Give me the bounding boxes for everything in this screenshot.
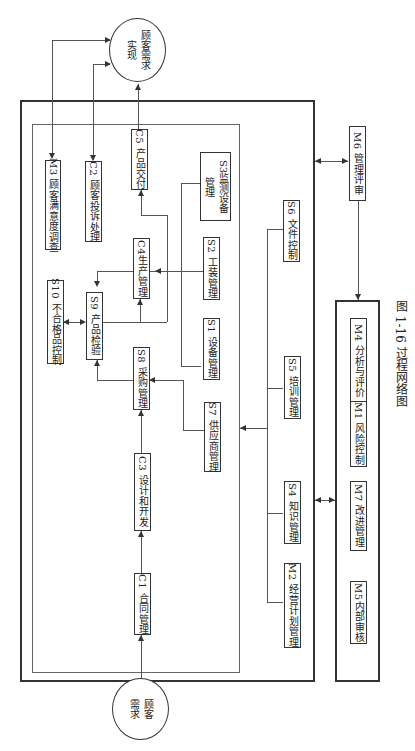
- node-c4-production-management: C4生产管理: [133, 238, 150, 299]
- node-c2-customer-complaint-handling: C2 顾客投诉处理: [85, 161, 102, 242]
- arrowhead: [315, 497, 321, 503]
- node-m5-internal-audit: M5内部审核: [350, 581, 367, 644]
- arrowhead: [240, 425, 246, 431]
- node-m4-analysis-evaluation: M4 分析与评价: [350, 318, 367, 403]
- edge-s1-c4: [181, 183, 182, 366]
- arrowhead: [342, 158, 348, 164]
- edge-m2-bus: [267, 602, 283, 603]
- figure-caption: 图 1-16 过程网络图: [392, 300, 409, 407]
- arrowhead: [137, 299, 143, 305]
- edge-s7-s8-tail: [183, 430, 204, 431]
- edge-c4-c5: [141, 215, 167, 216]
- node-s1-equipment-management: S1 设备管理: [203, 318, 220, 380]
- edge-start-c1: [141, 635, 142, 678]
- arrowhead: [105, 61, 111, 67]
- node-s7-supplier-management: S7 供应商管理: [204, 402, 221, 472]
- node-c3-design-development: C3 设计和开发: [134, 453, 151, 531]
- edge-s4-bus: [267, 513, 283, 514]
- node-s8-purchasing-management: S8 采购管理: [133, 347, 150, 410]
- edge-s1-c4-tail: [181, 366, 201, 367]
- edge-s6-bus: [267, 229, 283, 230]
- node-c5-product-delivery: C5 产品交付: [131, 129, 148, 190]
- node-s2-tooling-management: S2 工装管理: [203, 237, 220, 300]
- support-bus: [267, 229, 268, 602]
- node-s6-document-control: S6 文件控制: [283, 200, 300, 262]
- edge-m3-end: [52, 40, 110, 41]
- edge-c3-s8: [141, 410, 142, 453]
- node-s10-nonconforming-control: S10 不合格品控制: [47, 280, 64, 364]
- edge-c4-c5: [167, 215, 168, 322]
- node-m3-customer-satisfaction-survey: M3 顾客满意度调查: [45, 160, 61, 250]
- edge-c5-end: [138, 84, 139, 129]
- arrowhead: [135, 84, 141, 90]
- edge-c4-s9: [97, 271, 203, 272]
- edge-s7-s8: [183, 380, 184, 430]
- edge-m6-mgroup: [358, 201, 359, 300]
- node-c1-contract-management: C1 合同管理: [134, 573, 151, 635]
- arrowhead: [138, 531, 144, 537]
- start-node-customer-requirement: 顾客需求: [112, 678, 169, 740]
- arrowhead: [138, 635, 144, 641]
- arrowhead: [355, 294, 361, 300]
- node-s4-knowledge-management: S4 知识管理: [284, 481, 301, 544]
- arrowhead: [329, 497, 335, 503]
- arrowhead: [94, 360, 100, 366]
- edge-s9-right: [103, 322, 167, 323]
- arrowhead: [94, 281, 100, 287]
- node-s3-monitoring-equipment: S3监测设备管理: [200, 152, 231, 221]
- node-m6-management-review: M6 管理评审: [349, 126, 366, 201]
- node-s5-training-management: S5 培训管理: [284, 356, 301, 419]
- edge-s5-bus: [267, 388, 283, 389]
- arrowhead: [315, 158, 321, 164]
- edge-c1-c3: [141, 531, 142, 573]
- arrowhead: [155, 268, 161, 274]
- node-m1-risk-control: M1 风险控制: [350, 401, 367, 467]
- end-node-customer-requirement-realized: 顾客需求实现: [109, 18, 166, 82]
- arrowhead: [105, 37, 111, 43]
- edge-s1-c4: [181, 183, 201, 184]
- arrowhead: [138, 410, 144, 416]
- node-m7-improvement-management: M7 改进管理: [350, 481, 367, 551]
- node-m2-business-plan-management: M2 经营计划管理: [284, 563, 301, 648]
- node-s9-product-inspection: S9 产品检验: [86, 292, 103, 360]
- edge-s8-s9: [97, 380, 133, 381]
- edge-c4-s9-down: [97, 271, 98, 281]
- edge-m3-end: [52, 40, 53, 155]
- edge-c2-end: [93, 64, 94, 160]
- arrowhead: [138, 190, 144, 196]
